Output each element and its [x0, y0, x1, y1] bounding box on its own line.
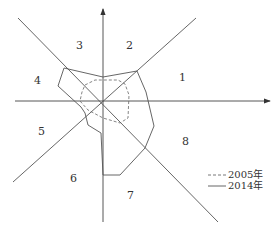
legend-label-2014: 2014年 [228, 179, 263, 191]
octant-label-5: 5 [38, 125, 45, 138]
octant-diagram: 1 2 3 4 5 6 7 8 2005年 2014年 [0, 0, 279, 239]
octant-label-7: 7 [127, 189, 134, 202]
polygon-2014 [58, 68, 154, 175]
polygon-2005 [80, 80, 129, 123]
octant-label-8: 8 [182, 135, 189, 148]
legend-label-2005: 2005年 [228, 168, 263, 180]
diagonal-line-2 [13, 18, 196, 182]
legend: 2005年 2014年 [208, 168, 263, 191]
octant-label-4: 4 [34, 74, 41, 87]
octant-label-6: 6 [70, 172, 77, 185]
octant-label-3: 3 [76, 39, 83, 52]
octant-label-2: 2 [126, 39, 133, 52]
octant-label-1: 1 [179, 71, 186, 84]
diagonal-line-1 [18, 18, 218, 222]
